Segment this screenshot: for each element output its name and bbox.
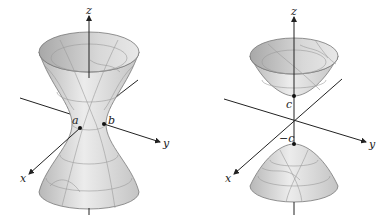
point-b [102,122,106,126]
hyperboloid-two-sheets: z y x c −c [224,5,376,215]
hyperboloid-one-sheet: z y x a b [20,4,170,215]
y-axis-label: y [368,138,376,151]
y-axis-label: y [162,137,170,150]
lower-sheet [250,144,338,202]
z-axis-label: z [290,5,297,18]
z-axis-label: z [85,4,92,17]
point-a-label: a [72,114,79,127]
diagram-canvas: z y x a b [0,0,387,224]
point-c [292,94,296,98]
y-axis-back [20,98,70,114]
point-a [78,126,82,130]
point-c-label: c [286,98,292,111]
x-axis-label: x [225,172,232,185]
point-neg-c-label: −c [279,132,294,145]
x-axis-label: x [20,172,27,185]
point-b-label: b [108,114,115,127]
